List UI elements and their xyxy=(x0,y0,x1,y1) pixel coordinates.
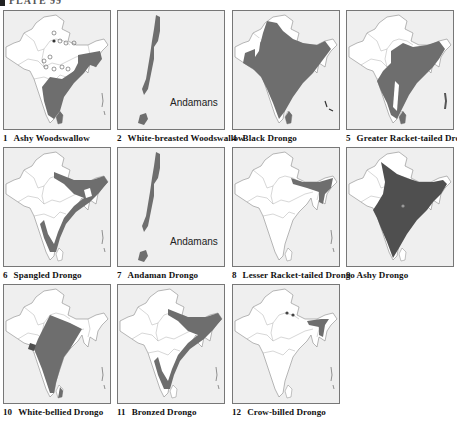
map-panel-crow-billed-drongo: 12Crow-billed Drongo xyxy=(232,284,340,417)
range-map xyxy=(3,284,111,404)
range-map: Andamans xyxy=(117,147,225,267)
species-caption: 9Ashy Drongo xyxy=(346,270,454,280)
range-map xyxy=(117,284,225,404)
map-panel-bronzed-drongo: 11Bronzed Drongo xyxy=(117,284,225,417)
map-panel-white-bellied-drongo: 10White-bellied Drongo xyxy=(3,284,111,417)
species-caption: 10White-bellied Drongo xyxy=(3,407,111,417)
map-panel-black-drongo: 4Black Drongo xyxy=(232,10,340,143)
map-panel-andaman-drongo: Andamans 7Andaman Drongo xyxy=(117,147,225,280)
range-map xyxy=(3,10,111,130)
species-caption: 4Black Drongo xyxy=(232,133,340,143)
map-panel-lesser-racket-tailed-drongo: 8Lesser Racket-tailed Drongo xyxy=(232,147,340,280)
range-map: Andamans xyxy=(117,10,225,130)
species-caption: 7Andaman Drongo xyxy=(117,270,225,280)
range-map xyxy=(232,284,340,404)
range-map xyxy=(346,10,454,130)
island-label: Andamans xyxy=(170,97,218,108)
plate-marker xyxy=(0,0,5,6)
range-map xyxy=(232,147,340,267)
species-caption: 8Lesser Racket-tailed Drongo xyxy=(232,270,340,280)
map-panel-ashy-woodswallow: 1Ashy Woodswallow xyxy=(3,10,111,143)
range-map xyxy=(346,147,454,267)
species-caption: 12Crow-billed Drongo xyxy=(232,407,340,417)
range-map xyxy=(3,147,111,267)
range-map xyxy=(232,10,340,130)
plate-header: PLATE 99 xyxy=(0,0,62,6)
species-caption: 5Greater Racket-tailed Drongo xyxy=(346,133,454,143)
plate-title: PLATE 99 xyxy=(9,0,62,6)
species-caption: 1Ashy Woodswallow xyxy=(3,133,111,143)
island-label: Andamans xyxy=(170,236,218,247)
map-panel-spangled-drongo: 6Spangled Drongo xyxy=(3,147,111,280)
map-panel-ashy-drongo: 9Ashy Drongo xyxy=(346,147,454,280)
species-caption: 2White-breasted Woodswallow xyxy=(117,133,225,143)
map-panel-white-breasted-woodswallow: Andamans 2White-breasted Woodswallow xyxy=(117,10,225,143)
species-caption: 6Spangled Drongo xyxy=(3,270,111,280)
map-panel-greater-racket-tailed-drongo: 5Greater Racket-tailed Drongo xyxy=(346,10,454,143)
species-caption: 11Bronzed Drongo xyxy=(117,407,225,417)
